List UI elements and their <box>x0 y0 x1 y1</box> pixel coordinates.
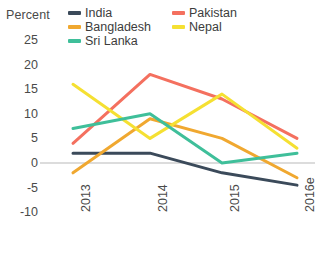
legend-item-india[interactable]: India <box>68 6 172 20</box>
series-line-bangladesh <box>73 119 297 178</box>
y-axis-tick: 25 <box>4 33 38 47</box>
y-axis-tick: 10 <box>4 107 38 121</box>
legend-label-pakistan: Pakistan <box>189 6 237 20</box>
x-axis-tick: 2016e <box>303 177 315 212</box>
x-axis-tick: 2013 <box>79 184 93 212</box>
y-axis-tick: 15 <box>4 82 38 96</box>
x-axis-tick: 2015 <box>228 184 242 212</box>
line-chart: Percent India Pakistan Bangladesh Nepal <box>0 0 315 264</box>
legend-item-pakistan[interactable]: Pakistan <box>172 6 237 20</box>
legend-row: India Pakistan <box>68 6 312 20</box>
y-axis: 2520151050-5-10 <box>0 0 38 264</box>
y-axis-tick: -10 <box>4 205 38 219</box>
y-axis-tick: -5 <box>4 181 38 195</box>
legend-label-india: India <box>85 6 112 20</box>
plot-area <box>40 28 315 208</box>
legend-swatch-india <box>68 11 81 15</box>
y-axis-tick: 0 <box>4 156 38 170</box>
y-axis-tick: 5 <box>4 131 38 145</box>
y-axis-tick: 20 <box>4 58 38 72</box>
legend-swatch-pakistan <box>172 11 185 15</box>
x-axis-tick: 2014 <box>156 184 170 212</box>
